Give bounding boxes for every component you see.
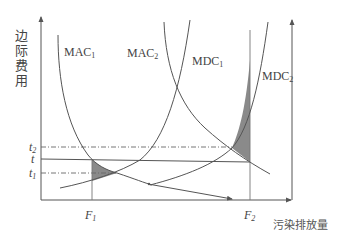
mac1-label: MAC1 (64, 46, 95, 62)
marginal-cost-diagram: 边际费用 MAC1 MAC2 MDC1 MDC2 t2 t t1 F1 F2 污… (0, 0, 345, 234)
diagram-canvas (0, 0, 345, 234)
mdc1-label: MDC1 (192, 55, 223, 71)
t-label: t (31, 153, 34, 165)
f1-label: F1 (85, 209, 96, 225)
mdc2-label: MDC2 (262, 70, 293, 86)
x-axis-label: 污染排放量 (273, 216, 328, 232)
junction-point (148, 183, 150, 185)
y-axis-label: 边际费用 (15, 28, 29, 88)
t-line (41, 159, 250, 162)
shaded-region-f2 (232, 60, 250, 162)
mac2-label: MAC2 (127, 47, 158, 63)
f2-label: F2 (244, 209, 255, 225)
t1-label: t1 (29, 167, 36, 183)
mac1-shift-arrow (148, 184, 232, 199)
